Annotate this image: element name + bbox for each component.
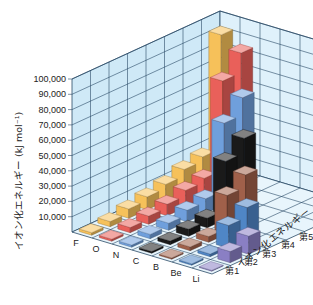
y-axis-label: イオン化エネルギー (kJ mol⁻¹) <box>13 112 24 250</box>
y-tick-label: 60,000 <box>38 135 66 145</box>
depth-tick-label: 第5 <box>299 231 313 242</box>
x-tick-label-O: O <box>92 244 99 254</box>
depth-tick-label: 第4 <box>281 239 295 250</box>
ionization-energy-3d-bar-chart: 10,00020,00030,00040,00050,00060,00070,0… <box>0 0 313 305</box>
y-tick-label: 50,000 <box>38 151 66 161</box>
x-tick-label-B: B <box>153 262 159 272</box>
x-tick-label-C: C <box>133 256 140 266</box>
x-tick-label-F: F <box>73 238 79 248</box>
y-tick-label: 70,000 <box>38 120 66 130</box>
y-tick-label: 10,000 <box>38 212 66 222</box>
x-tick-label-N: N <box>113 250 120 260</box>
y-tick-label: 100,000 <box>33 74 66 84</box>
y-tick-label: 20,000 <box>38 196 66 206</box>
y-tick-label: 40,000 <box>38 166 66 176</box>
depth-tick-label: 第1 <box>225 265 239 276</box>
x-tick-label-Be: Be <box>170 268 181 278</box>
x-tick-label-Li: Li <box>192 274 199 284</box>
y-tick-label: 30,000 <box>38 181 66 191</box>
y-tick-label: 80,000 <box>38 105 66 115</box>
y-tick-label: 90,000 <box>38 89 66 99</box>
